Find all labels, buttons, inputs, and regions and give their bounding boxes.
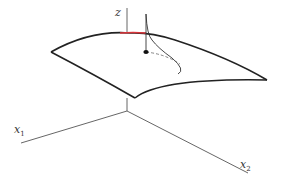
z-axis-label: z bbox=[115, 7, 121, 18]
surface-diagram: z x1 x2 bbox=[0, 0, 286, 186]
x2-axis-label: x2 bbox=[240, 159, 251, 173]
x1-axis bbox=[21, 111, 127, 143]
surface-front-edge bbox=[135, 80, 267, 98]
x2-label-subscript: 2 bbox=[246, 165, 250, 173]
highlight-edge-segment bbox=[120, 33, 146, 34]
surface-back-edge bbox=[51, 33, 267, 80]
trajectory-curve bbox=[146, 14, 181, 74]
surface-point bbox=[143, 50, 148, 54]
x1-label-subscript: 1 bbox=[20, 130, 24, 138]
surface-left-edge bbox=[51, 52, 135, 98]
dashed-projection bbox=[146, 52, 180, 64]
x2-axis bbox=[127, 111, 248, 173]
x1-axis-label: x1 bbox=[14, 124, 25, 138]
z-label-text: z bbox=[115, 6, 121, 19]
